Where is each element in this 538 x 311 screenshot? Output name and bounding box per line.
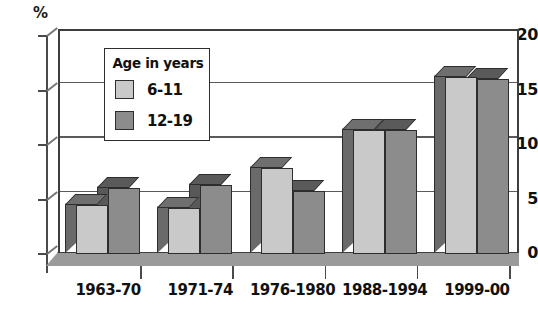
bar-1971-74-12-19 — [200, 185, 232, 254]
x-tick-label-1999-00: 1999-00 — [417, 281, 537, 299]
y-tick-depth-connector — [46, 245, 57, 255]
bar-1976-1980-6-11 — [261, 168, 293, 254]
bar-chart: % 20151050 1963-701971-741976-19801988-1… — [0, 0, 538, 311]
bar-1976-1980-12-19 — [293, 191, 325, 254]
bar-side-face — [342, 119, 353, 254]
bar-1999-00-12-19 — [477, 79, 509, 254]
bar-1988-1994-12-19 — [385, 130, 417, 254]
bar-1963-70-6-11 — [76, 205, 108, 254]
legend-item-6-11: 6-11 — [115, 80, 183, 99]
legend: Age in years 6-1112-19 — [104, 48, 210, 141]
legend-title: Age in years — [105, 55, 211, 71]
legend-swatch-12-19 — [115, 111, 134, 130]
legend-swatch-6-11 — [115, 80, 134, 99]
x-tick-mark — [232, 266, 234, 279]
bar-front-face — [76, 205, 108, 254]
y-tick-depth-connector — [46, 136, 57, 146]
bar-side-face — [434, 66, 445, 253]
bar-1988-1994-6-11 — [353, 130, 385, 254]
legend-label: 12-19 — [147, 112, 192, 130]
legend-item-12-19: 12-19 — [115, 111, 192, 130]
y-axis-line — [46, 36, 48, 273]
legend-label: 6-11 — [147, 81, 183, 99]
x-tick-mark — [417, 266, 419, 279]
x-tick-mark — [325, 266, 327, 279]
bar-front-face — [353, 130, 385, 254]
bar-front-face — [168, 208, 200, 254]
bar-front-face — [261, 168, 293, 254]
y-axis-unit-label: % — [33, 4, 48, 22]
x-tick-mark — [140, 266, 142, 279]
bar-1999-00-6-11 — [445, 77, 477, 254]
bar-1971-74-6-11 — [168, 208, 200, 254]
bar-1963-70-12-19 — [108, 188, 140, 254]
bar-front-face — [385, 130, 417, 254]
chart-floor — [46, 252, 519, 266]
x-tick-mark — [509, 266, 511, 279]
bar-front-face — [445, 77, 477, 254]
y-tick-depth-connector — [46, 82, 57, 92]
bar-front-face — [293, 191, 325, 254]
bar-front-face — [477, 79, 509, 254]
y-tick-depth-connector — [46, 27, 57, 37]
bar-front-face — [200, 185, 232, 254]
bar-side-face — [250, 157, 261, 253]
y-tick-depth-connector — [46, 191, 57, 201]
bar-front-face — [108, 188, 140, 254]
